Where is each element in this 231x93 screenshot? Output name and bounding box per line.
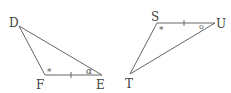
angle-mark-circle-u: o <box>199 22 204 31</box>
triangle-stu: S U T * o <box>125 10 226 91</box>
vertex-label-d: D <box>9 16 19 30</box>
vertex-label-f: F <box>36 78 44 92</box>
vertex-label-e: E <box>96 78 105 92</box>
vertex-label-s: S <box>151 10 159 24</box>
angle-mark-star-s: * <box>159 25 164 35</box>
diagram-canvas: D F E * α S U T * o <box>0 0 231 93</box>
angle-mark-star-f: * <box>47 67 52 77</box>
triangle-dfe: D F E * α <box>9 16 105 92</box>
vertex-label-t: T <box>125 77 133 91</box>
angle-mark-alpha-e: α <box>86 66 92 76</box>
vertex-label-u: U <box>216 17 226 31</box>
